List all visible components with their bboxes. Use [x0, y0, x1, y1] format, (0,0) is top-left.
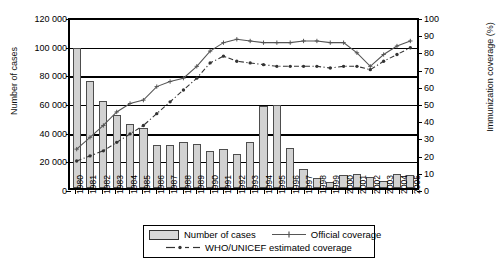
data-point-marker [128, 132, 131, 135]
data-point-marker [301, 39, 305, 43]
y-axis-right-tick-mark [417, 88, 422, 89]
legend-item-who-unicef-estimated-coverage: WHO/UNICEF estimated coverage [166, 242, 352, 253]
legend-label: WHO/UNICEF estimated coverage [205, 242, 352, 253]
data-point-marker [102, 149, 105, 152]
data-point-marker [182, 88, 185, 91]
x-axis-tick: 1981 [82, 192, 96, 232]
data-point-marker [342, 65, 345, 68]
data-point-marker [248, 61, 251, 64]
data-point-marker [235, 60, 238, 63]
line-path [77, 48, 411, 161]
data-point-marker [315, 39, 319, 43]
data-point-marker [302, 65, 305, 68]
chart-legend: Number of cases Official coverage WHO/UN… [143, 225, 375, 258]
data-point-marker [275, 40, 279, 44]
data-point-marker [261, 40, 265, 44]
data-point-marker [235, 37, 239, 41]
data-point-marker [208, 61, 211, 64]
x-axis-tick: 2005 [406, 192, 420, 232]
y-axis-right-tick-mark [417, 36, 422, 37]
chart-container: Number of cases Immunization coverage (%… [0, 0, 497, 261]
data-point-marker [168, 79, 172, 83]
y-axis-right-tick-label: 10 [424, 169, 434, 179]
x-axis-tick-label: 2005 [412, 175, 422, 194]
y-axis-right-tick-label: 70 [424, 66, 434, 76]
line-series-layer [70, 19, 417, 188]
data-point-marker [382, 60, 385, 63]
y-axis-left-tick-label: 20 000 [39, 157, 67, 167]
y-axis-right-tick-mark [417, 71, 422, 72]
x-axis-tick: 1983 [109, 192, 123, 232]
dashed-line-dot-icon [166, 243, 200, 252]
data-point-marker [88, 154, 91, 157]
y-axis-left-title: Number of cases [9, 21, 19, 141]
y-axis-right-tick-label: 20 [424, 152, 434, 162]
x-axis-tick: 2004 [392, 192, 406, 232]
y-axis-right-tick-label: 40 [424, 117, 434, 127]
data-point-marker [409, 46, 412, 49]
y-axis-left-tick-label: 60 000 [39, 100, 67, 110]
x-axis-tick: 1982 [95, 192, 109, 232]
data-point-marker [315, 65, 318, 68]
bar-swatch-icon [149, 230, 179, 240]
data-point-marker [155, 112, 158, 115]
y-axis-right-tick-label: 0 [424, 186, 429, 196]
y-axis-right-tick-label: 50 [424, 100, 434, 110]
data-point-marker [355, 65, 358, 68]
data-point-marker [328, 40, 332, 44]
y-axis-left-tick-label: 100 000 [34, 43, 67, 53]
y-axis-right-tick-mark [417, 157, 422, 158]
legend-label: Official coverage [311, 229, 382, 240]
legend-item-number-of-cases: Number of cases [149, 229, 256, 240]
y-axis-right-tick-mark [417, 53, 422, 54]
y-axis-right-tick-label: 100 [424, 14, 439, 24]
data-point-marker [408, 39, 412, 43]
line-path [77, 39, 411, 149]
data-point-marker [262, 63, 265, 66]
data-point-marker [75, 159, 78, 162]
data-point-marker [168, 100, 171, 103]
data-point-marker [288, 40, 292, 44]
data-point-marker [222, 55, 225, 58]
x-axis-tick: 1984 [122, 192, 136, 232]
data-point-marker [275, 65, 278, 68]
data-point-marker [142, 124, 145, 127]
legend-item-official-coverage: Official coverage [272, 229, 382, 240]
y-axis-right-title: Immunization coverage (%) [485, 12, 495, 142]
y-axis-right-tick-label: 30 [424, 134, 434, 144]
data-point-marker [369, 68, 372, 71]
x-axis-tick: 2003 [379, 192, 393, 232]
plot-area: 020 00040 00060 00080 000100 000120 000 … [68, 18, 419, 190]
data-point-marker [395, 53, 398, 56]
y-axis-left-tick-label: 40 000 [39, 129, 67, 139]
y-axis-left-tick-label: 80 000 [39, 71, 67, 81]
data-point-marker [289, 65, 292, 68]
y-axis-right-tick-label: 80 [424, 48, 434, 58]
y-axis-right-tick-label: 60 [424, 83, 434, 93]
x-axis-tick: 1980 [68, 192, 82, 232]
y-axis-right-tick-mark [417, 122, 422, 123]
y-axis-right-tick-mark [417, 139, 422, 140]
y-axis-left-tick-label: 120 000 [34, 14, 67, 24]
y-axis-right-tick-mark [417, 105, 422, 106]
data-point-marker [248, 39, 252, 43]
data-point-marker [115, 141, 118, 144]
solid-line-plus-icon [272, 230, 306, 239]
data-point-marker [329, 66, 332, 69]
y-axis-right-tick-label: 90 [424, 31, 434, 41]
y-axis-right-tick-mark [417, 19, 422, 20]
data-point-marker [195, 76, 198, 79]
legend-label: Number of cases [184, 229, 256, 240]
